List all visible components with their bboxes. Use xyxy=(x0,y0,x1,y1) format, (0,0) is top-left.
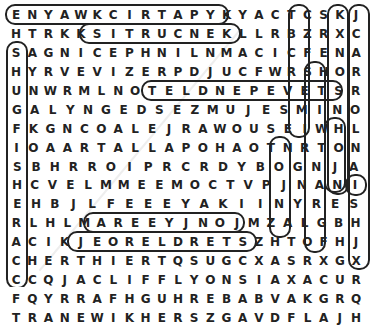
grid-cell[interactable]: L xyxy=(127,141,144,155)
grid-cell[interactable]: K xyxy=(218,27,234,41)
grid-cell[interactable]: I xyxy=(105,65,121,79)
grid-cell[interactable]: H xyxy=(138,46,154,60)
grid-cell[interactable]: A xyxy=(228,141,245,155)
grid-cell[interactable]: J xyxy=(326,160,345,174)
grid-cell[interactable]: L xyxy=(83,197,102,211)
grid-cell[interactable]: L xyxy=(79,178,97,192)
grid-cell[interactable]: L xyxy=(127,122,144,136)
grid-cell[interactable]: H xyxy=(211,141,228,155)
grid-cell[interactable]: A xyxy=(57,8,73,22)
grid-cell[interactable]: B xyxy=(251,160,270,174)
grid-cell[interactable]: E xyxy=(121,254,137,268)
grid-cell[interactable]: E xyxy=(262,84,279,98)
grid-cell[interactable]: I xyxy=(120,160,139,174)
grid-cell[interactable]: S xyxy=(150,103,168,117)
grid-cell[interactable]: E xyxy=(8,8,24,22)
grid-cell[interactable]: O xyxy=(211,216,228,230)
grid-cell[interactable]: G xyxy=(218,254,234,268)
grid-cell[interactable]: J xyxy=(275,178,293,192)
grid-cell[interactable]: I xyxy=(232,197,251,211)
grid-cell[interactable]: D xyxy=(170,235,186,249)
grid-cell[interactable]: A xyxy=(42,141,59,155)
grid-cell[interactable]: O xyxy=(245,141,262,155)
grid-cell[interactable]: S xyxy=(330,84,347,98)
grid-cell[interactable]: C xyxy=(348,27,364,41)
grid-cell[interactable]: T xyxy=(222,178,240,192)
grid-cell[interactable]: R xyxy=(73,292,89,306)
grid-cell[interactable]: Y xyxy=(235,8,251,22)
grid-cell[interactable]: Q xyxy=(348,292,364,306)
grid-cell[interactable]: A xyxy=(316,311,332,325)
grid-cell[interactable]: A xyxy=(89,292,105,306)
grid-cell[interactable]: G xyxy=(288,160,307,174)
grid-cell[interactable]: E xyxy=(150,178,168,192)
grid-cell[interactable]: X xyxy=(283,273,299,287)
grid-cell[interactable]: K xyxy=(57,235,73,249)
grid-cell[interactable]: S xyxy=(89,27,105,41)
grid-cell[interactable]: V xyxy=(57,65,73,79)
grid-cell[interactable]: C xyxy=(105,8,121,22)
grid-cell[interactable]: R xyxy=(24,311,40,325)
grid-cell[interactable]: A xyxy=(40,311,56,325)
grid-cell[interactable]: I xyxy=(267,46,283,60)
grid-cell[interactable]: X xyxy=(348,254,364,268)
grid-cell[interactable]: L xyxy=(347,122,364,136)
grid-cell[interactable]: P xyxy=(178,141,195,155)
grid-cell[interactable]: R xyxy=(186,292,202,306)
grid-cell[interactable]: I xyxy=(105,27,121,41)
grid-cell[interactable]: H xyxy=(24,254,40,268)
grid-cell[interactable]: G xyxy=(40,46,56,60)
grid-cell[interactable]: K xyxy=(25,122,42,136)
grid-cell[interactable]: Z xyxy=(202,311,218,325)
grid-cell[interactable]: E xyxy=(316,46,332,60)
grid-cell[interactable]: W xyxy=(267,65,283,79)
grid-cell[interactable]: L xyxy=(44,103,62,117)
grid-cell[interactable]: K xyxy=(299,292,315,306)
grid-cell[interactable]: Q xyxy=(40,273,56,287)
grid-cell[interactable]: N xyxy=(307,160,326,174)
grid-cell[interactable]: A xyxy=(170,8,186,22)
grid-cell[interactable]: N xyxy=(211,84,228,98)
grid-cell[interactable]: G xyxy=(97,103,115,117)
grid-cell[interactable]: E xyxy=(279,122,296,136)
grid-cell[interactable]: A xyxy=(235,311,251,325)
grid-cell[interactable]: A xyxy=(194,122,211,136)
grid-cell[interactable]: I xyxy=(170,46,186,60)
grid-cell[interactable]: S xyxy=(186,254,202,268)
grid-cell[interactable]: S xyxy=(8,46,24,60)
grid-cell[interactable]: L xyxy=(93,84,110,98)
grid-cell[interactable]: W xyxy=(211,122,228,136)
grid-cell[interactable]: N xyxy=(194,216,211,230)
grid-cell[interactable]: D xyxy=(267,311,283,325)
grid-cell[interactable]: A xyxy=(26,103,44,117)
grid-cell[interactable]: V xyxy=(267,292,283,306)
grid-cell[interactable]: E xyxy=(202,27,218,41)
grid-cell[interactable]: H xyxy=(42,216,59,230)
grid-cell[interactable]: V xyxy=(89,65,105,79)
grid-cell[interactable]: Z xyxy=(186,103,204,117)
grid-cell[interactable]: L xyxy=(235,27,251,41)
grid-cell[interactable]: N xyxy=(270,197,289,211)
grid-cell[interactable]: R xyxy=(186,235,202,249)
grid-cell[interactable]: C xyxy=(89,273,105,287)
grid-cell[interactable]: N xyxy=(79,103,97,117)
grid-cell[interactable]: W xyxy=(89,311,105,325)
grid-cell[interactable]: L xyxy=(25,216,42,230)
grid-cell[interactable]: C xyxy=(8,254,24,268)
grid-cell[interactable]: N xyxy=(57,46,73,60)
grid-cell[interactable]: T xyxy=(154,254,170,268)
grid-cell[interactable]: R xyxy=(121,235,137,249)
grid-cell[interactable]: D xyxy=(186,65,202,79)
grid-cell[interactable]: E xyxy=(326,197,345,211)
grid-cell[interactable]: N xyxy=(59,122,76,136)
grid-cell[interactable]: U xyxy=(202,254,218,268)
grid-cell[interactable]: A xyxy=(251,8,267,22)
grid-cell[interactable]: R xyxy=(178,122,195,136)
grid-cell[interactable]: E xyxy=(40,254,56,268)
grid-cell[interactable]: R xyxy=(59,84,76,98)
grid-cell[interactable]: W xyxy=(73,8,89,22)
grid-cell[interactable]: A xyxy=(279,216,296,230)
grid-cell[interactable]: R xyxy=(347,84,364,98)
grid-cell[interactable]: R xyxy=(138,254,154,268)
grid-cell[interactable]: E xyxy=(89,235,105,249)
